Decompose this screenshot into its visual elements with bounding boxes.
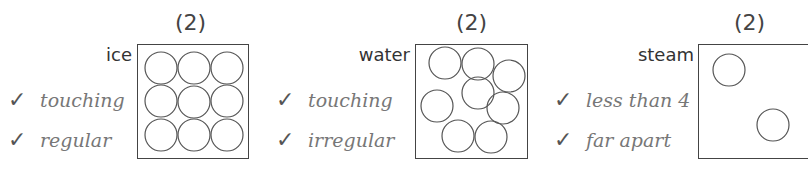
answer-text: touching — [40, 91, 125, 110]
check-icon: ✓ — [554, 129, 572, 151]
check-icon: ✓ — [8, 129, 26, 151]
answer-text: regular — [40, 131, 111, 150]
particle-diagram — [416, 45, 529, 160]
particle-box — [698, 44, 808, 159]
particle-diagram — [138, 45, 250, 160]
state-label: water — [350, 46, 410, 64]
marks-label: (2) — [734, 12, 765, 34]
particle-box — [137, 44, 249, 159]
check-icon: ✓ — [276, 89, 294, 111]
marks-label: (2) — [456, 12, 487, 34]
answer-text: touching — [308, 91, 393, 110]
state-label: ice — [90, 46, 132, 64]
check-icon: ✓ — [8, 89, 26, 111]
marks-label: (2) — [175, 12, 206, 34]
state-label: steam — [630, 46, 694, 64]
particle-box — [415, 44, 528, 159]
check-icon: ✓ — [276, 129, 294, 151]
answer-text: far apart — [586, 131, 671, 150]
check-icon: ✓ — [554, 89, 572, 111]
particle-diagram — [699, 45, 809, 160]
answer-text: less than 4 — [586, 91, 690, 110]
answer-text: irregular — [308, 131, 394, 150]
